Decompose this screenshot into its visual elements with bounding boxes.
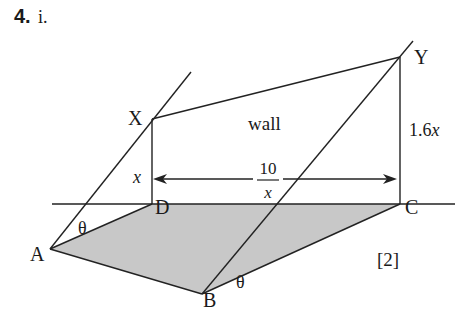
label-X: X	[128, 107, 143, 129]
label-height-XD: x	[132, 167, 141, 187]
marks-label: [2]	[377, 249, 399, 270]
label-height-YC: 1.6x	[409, 120, 440, 140]
question-part: i.	[38, 7, 48, 27]
diagram-canvas: 4. i. 10 x X Y D C A B wall x 1.6x θ θ […	[0, 0, 475, 335]
shaded-floor-region	[50, 204, 400, 294]
edge-XY	[152, 57, 400, 119]
width-numerator: 10	[260, 159, 277, 178]
label-A: A	[30, 243, 45, 265]
label-B: B	[203, 289, 216, 311]
label-Y: Y	[414, 46, 428, 68]
width-denominator: x	[263, 183, 272, 202]
question-number: 4.	[14, 5, 31, 27]
label-D: D	[155, 196, 169, 218]
label-theta-B: θ	[236, 272, 245, 292]
label-theta-A: θ	[78, 218, 87, 238]
label-wall: wall	[248, 113, 281, 134]
label-C: C	[405, 196, 418, 218]
